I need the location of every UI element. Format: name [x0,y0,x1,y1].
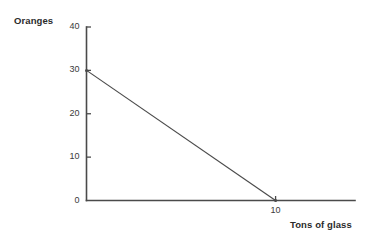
y-axis-tick-label: 0 [60,195,80,205]
y-axis-tick-label: 40 [60,21,80,31]
y-axis-tick-label: 20 [60,108,80,118]
y-axis-tick-label: 30 [60,64,80,74]
chart-figure: Oranges Tons of glass 01020304010 [0,0,372,240]
x-axis-tick-label: 10 [264,205,288,215]
plot-area [0,0,372,240]
y-axis-tick-label: 10 [60,151,80,161]
data-line-0 [87,70,276,200]
data-endpoint-marker [85,69,88,72]
data-endpoint-marker [274,199,277,202]
